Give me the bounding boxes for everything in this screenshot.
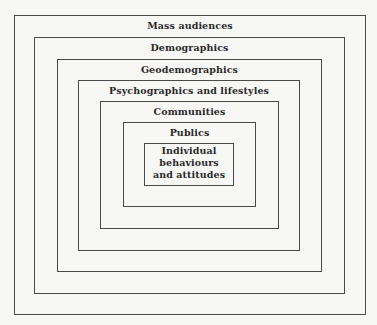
layer-label: Communities bbox=[101, 106, 278, 117]
layer-label: Psychographics and lifestyles bbox=[79, 85, 299, 96]
layer-individual-behaviours-and-attitudes: Individual behaviours and attitudes bbox=[144, 143, 234, 186]
layer-label: Publics bbox=[124, 127, 255, 138]
layer-label: Individual behaviours and attitudes bbox=[145, 145, 233, 181]
layer-label: Demographics bbox=[35, 42, 344, 53]
layer-label: Mass audiences bbox=[15, 20, 365, 31]
layer-label: Geodemographics bbox=[58, 64, 321, 75]
